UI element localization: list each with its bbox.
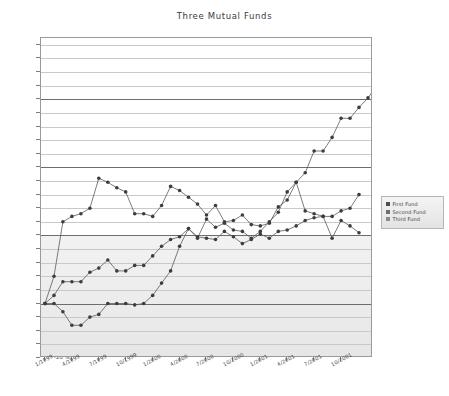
data-point (115, 186, 119, 190)
data-point (232, 219, 236, 223)
data-point (205, 236, 209, 240)
data-point (268, 236, 272, 240)
data-point (357, 193, 361, 197)
legend-label: First Fund (393, 201, 418, 207)
data-point (339, 219, 343, 223)
legend-swatch-icon (386, 210, 390, 214)
data-point (178, 235, 182, 239)
data-point (106, 258, 110, 262)
data-point (294, 181, 298, 185)
data-point (43, 302, 47, 306)
data-point (61, 280, 65, 284)
data-point (348, 117, 352, 121)
data-point (160, 204, 164, 208)
data-point (232, 235, 236, 239)
data-point (79, 280, 83, 284)
data-point (339, 209, 343, 213)
data-point (52, 302, 56, 306)
data-point (312, 149, 316, 153)
data-point (312, 212, 316, 216)
data-point (250, 238, 254, 242)
data-point (124, 190, 128, 194)
data-point (241, 213, 245, 217)
data-point (124, 302, 128, 306)
data-point (303, 171, 307, 175)
data-point (330, 136, 334, 140)
data-point (277, 230, 281, 234)
data-point (259, 232, 263, 236)
data-point (151, 215, 155, 219)
data-point (52, 294, 56, 298)
chart-title: Three Mutual Funds (0, 11, 449, 21)
data-point (97, 177, 101, 181)
data-point (169, 185, 173, 189)
data-point (196, 202, 200, 206)
data-point (169, 269, 173, 273)
data-point (169, 238, 173, 242)
data-point (151, 254, 155, 258)
data-point (70, 215, 74, 219)
data-point (52, 275, 56, 279)
data-point (178, 245, 182, 249)
data-point (61, 220, 65, 224)
data-point (88, 270, 92, 274)
data-point (196, 235, 200, 239)
data-point (88, 315, 92, 319)
data-point (339, 117, 343, 121)
data-point (142, 264, 146, 268)
series-line (45, 178, 359, 303)
data-point (330, 215, 334, 219)
data-point (223, 230, 227, 234)
data-point (366, 96, 370, 100)
data-point (178, 189, 182, 193)
data-point (214, 226, 218, 230)
data-point (151, 294, 155, 298)
data-point (312, 216, 316, 220)
data-point (232, 228, 236, 232)
data-point (321, 149, 325, 153)
data-point (106, 181, 110, 185)
data-point (285, 228, 289, 232)
data-point (348, 224, 352, 228)
data-point (277, 205, 281, 209)
data-point (250, 223, 254, 227)
series-line (45, 195, 359, 326)
data-point (303, 219, 307, 223)
legend-item-3[interactable]: Third Fund (386, 216, 440, 222)
data-point (115, 269, 119, 273)
data-point (214, 204, 218, 208)
data-point (223, 221, 227, 225)
data-point (133, 212, 137, 216)
data-point (259, 224, 263, 228)
data-point (142, 302, 146, 306)
data-point (187, 196, 191, 200)
legend-label: Second Fund (393, 209, 426, 215)
data-point (106, 302, 110, 306)
series-layer (41, 38, 372, 357)
data-point (133, 303, 137, 307)
legend-item-1[interactable]: First Fund (386, 201, 440, 207)
data-point (285, 190, 289, 194)
data-point (268, 220, 272, 224)
legend[interactable]: First FundSecond FundThird Fund (381, 196, 444, 229)
data-point (133, 264, 137, 268)
data-point (277, 211, 281, 215)
legend-item-2[interactable]: Second Fund (386, 209, 440, 215)
data-point (115, 302, 119, 306)
data-point (330, 236, 334, 240)
data-point (187, 227, 191, 231)
data-point (285, 198, 289, 202)
data-point (241, 230, 245, 234)
data-point (70, 280, 74, 284)
data-point (348, 206, 352, 210)
legend-swatch-icon (386, 217, 390, 221)
data-point (97, 266, 101, 270)
data-point (294, 224, 298, 228)
data-point (88, 206, 92, 210)
chart-container: Three Mutual Funds 95 %90 %85 %80 %75 %7… (0, 0, 449, 396)
data-point (97, 313, 101, 317)
data-point (79, 212, 83, 216)
data-point (357, 106, 361, 110)
data-point (241, 242, 245, 246)
plot-area (40, 37, 372, 357)
